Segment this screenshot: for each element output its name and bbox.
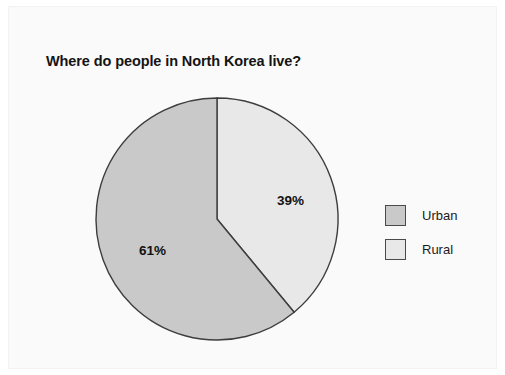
pie-label-urban: 61% <box>139 243 166 258</box>
legend-label-rural: Rural <box>422 242 453 257</box>
chart-page: Where do people in North Korea live? 39%… <box>0 0 505 375</box>
legend: Urban Rural <box>385 198 495 266</box>
chart-panel: Where do people in North Korea live? 39%… <box>8 6 497 369</box>
legend-swatch-rural <box>385 239 406 260</box>
page-title: Where do people in North Korea live? <box>46 53 301 69</box>
legend-item-rural[interactable]: Rural <box>385 232 495 266</box>
pie-label-rural: 39% <box>277 193 304 208</box>
legend-item-urban[interactable]: Urban <box>385 198 495 232</box>
legend-label-urban: Urban <box>422 208 457 223</box>
pie-chart <box>93 95 341 343</box>
pie-svg <box>93 95 341 343</box>
legend-swatch-urban <box>385 205 406 226</box>
